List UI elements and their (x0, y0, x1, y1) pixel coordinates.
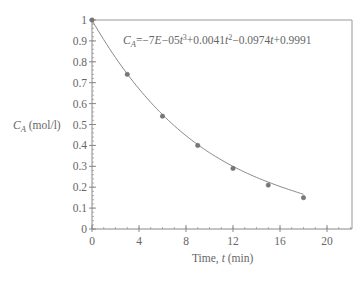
y-tick-label: 0.8 (73, 56, 88, 68)
data-point (196, 143, 200, 147)
data-point (125, 72, 129, 76)
y-label-suffix: (mol/l) (26, 119, 61, 132)
eq-p10: +0.9991 (274, 34, 312, 46)
data-point (160, 114, 164, 118)
fit-equation: CA=−7E−05t3+0.0041t2−0.0974t+0.9991 (123, 33, 312, 49)
eq-p1: E (154, 34, 162, 46)
eq-p5: +0.0041 (187, 34, 225, 46)
y-tick-label: 0.1 (73, 202, 88, 214)
chart: 00.10.20.30.40.50.60.70.80.91 048121620 … (0, 0, 363, 282)
x-tick-label: 8 (183, 235, 189, 247)
y-tick-label: 0.9 (73, 35, 88, 47)
y-axis-label: CA (mol/l) (13, 119, 61, 134)
eq-p0: =−7 (136, 34, 155, 46)
plot-frame (92, 20, 352, 229)
x-axis-ticks: 048121620 (89, 225, 333, 247)
data-point (266, 183, 270, 187)
x-tick-label: 4 (136, 235, 142, 247)
x-tick-label: 0 (89, 235, 95, 247)
eq-p2: −05 (162, 34, 180, 46)
y-tick-label: 0.3 (73, 160, 88, 172)
x-tick-label: 20 (321, 235, 333, 247)
y-tick-label: 0.4 (73, 139, 88, 151)
x-tick-label: 12 (227, 235, 239, 247)
y-tick-label: 1 (81, 14, 87, 26)
x-tick-label: 16 (274, 235, 286, 247)
x-axis-label: Time, t (min) (192, 252, 253, 265)
x-label-prefix: Time, (192, 252, 222, 265)
y-tick-label: 0 (81, 223, 87, 235)
data-point (90, 18, 94, 22)
y-tick-label: 0.2 (73, 181, 88, 193)
y-tick-label: 0.5 (73, 119, 88, 131)
y-tick-label: 0.7 (73, 77, 88, 89)
data-point (231, 166, 235, 170)
x-label-suffix: (min) (225, 252, 254, 265)
data-point (301, 195, 305, 199)
y-tick-label: 0.6 (73, 98, 88, 110)
fit-curve (92, 20, 304, 194)
eq-p8: −0.0974 (232, 34, 270, 46)
